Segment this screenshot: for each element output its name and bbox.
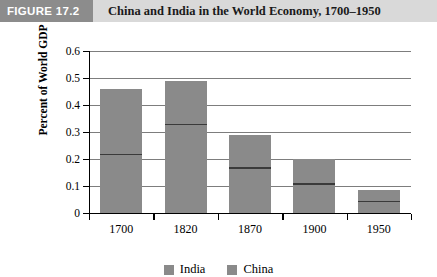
bar-series-divider xyxy=(358,201,400,203)
x-axis-line xyxy=(89,213,411,214)
y-axis-tick-mark xyxy=(83,186,90,187)
y-axis-tick-mark xyxy=(83,78,90,79)
y-axis-tick-mark xyxy=(83,132,90,133)
y-axis-tick-label: 0 xyxy=(20,207,80,219)
x-axis-tick-label: 1900 xyxy=(282,222,346,237)
gridline xyxy=(89,78,411,79)
bar-series-divider xyxy=(293,183,335,185)
bar-series-divider xyxy=(165,124,207,126)
y-axis-tick-mark xyxy=(83,105,90,106)
y-axis-tick-label: 0.2 xyxy=(20,153,80,165)
chart-legend: IndiaChina xyxy=(0,262,437,277)
bar-1900 xyxy=(293,159,335,213)
legend-item-china: China xyxy=(227,262,273,277)
bar-1870 xyxy=(229,135,271,213)
x-axis-tick-mark xyxy=(282,214,283,220)
legend-label: India xyxy=(180,262,206,277)
y-axis-tick-labels: 00.10.20.30.40.50.6 xyxy=(18,22,80,267)
bar-series-divider xyxy=(229,167,271,169)
x-axis-tick-mark xyxy=(218,214,219,220)
legend-swatch-china xyxy=(227,265,237,275)
legend-item-india: India xyxy=(164,262,206,277)
x-axis-tick-mark xyxy=(153,214,154,220)
y-axis-tick-label: 0.4 xyxy=(20,99,80,111)
x-axis-tick-label: 1950 xyxy=(347,222,411,237)
chart-area: Percent of World GDP 00.10.20.30.40.50.6… xyxy=(0,22,437,267)
gridline xyxy=(89,51,411,52)
legend-swatch-india xyxy=(164,265,174,275)
x-axis-tick-mark xyxy=(411,214,412,220)
x-axis-tick-label: 1870 xyxy=(218,222,282,237)
legend-label: China xyxy=(243,262,273,277)
y-axis-tick-mark xyxy=(83,51,90,52)
plot-area xyxy=(89,51,411,213)
figure-title: China and India in the World Economy, 17… xyxy=(93,0,437,22)
figure-header: FIGURE 17.2 China and India in the World… xyxy=(0,0,437,22)
bar-1700 xyxy=(100,89,142,213)
y-axis-tick-label: 0.6 xyxy=(20,45,80,57)
x-axis-tick-label: 1820 xyxy=(154,222,218,237)
bar-1820 xyxy=(165,81,207,213)
x-axis-tick-mark xyxy=(347,214,348,220)
y-axis-tick-label: 0.1 xyxy=(20,180,80,192)
y-axis-tick-label: 0.3 xyxy=(20,126,80,138)
bar-series-divider xyxy=(100,154,142,156)
bar-1950 xyxy=(358,190,400,213)
y-axis-tick-mark xyxy=(83,159,90,160)
x-axis-tick-label: 1700 xyxy=(89,222,153,237)
y-axis-tick-label: 0.5 xyxy=(20,72,80,84)
x-axis-tick-mark xyxy=(89,214,90,220)
